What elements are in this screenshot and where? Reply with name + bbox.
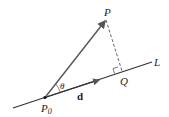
label-theta: θ [60, 81, 65, 91]
label-p0: P0 [40, 102, 52, 116]
label-p: P [103, 6, 111, 18]
label-p0-subscript: 0 [48, 107, 52, 116]
vector-p0-p [45, 21, 105, 98]
direction-vector-d [45, 80, 99, 98]
label-q: Q [120, 75, 128, 87]
right-angle-mark [113, 67, 118, 74]
label-d: d [77, 90, 83, 102]
projection-diagram: P P0 Q L θ d [0, 0, 169, 117]
label-l: L [153, 56, 160, 68]
point-p0-dot [43, 96, 46, 99]
perpendicular-dashed-line [106, 20, 122, 71]
